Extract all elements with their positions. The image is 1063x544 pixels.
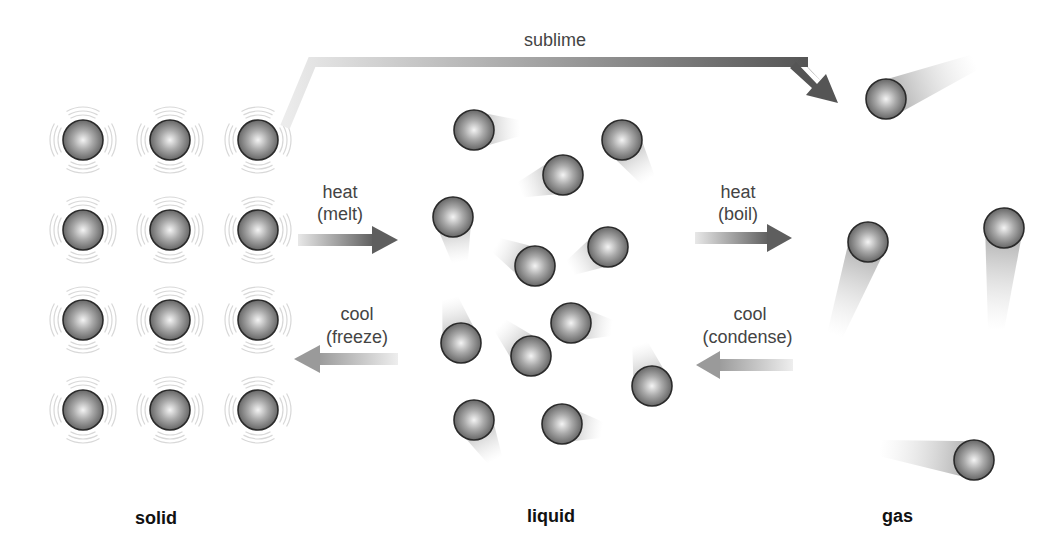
vibration-arc	[233, 128, 236, 153]
vibration-arc	[280, 308, 283, 333]
vibration-arc	[244, 381, 273, 385]
vibration-arc	[156, 111, 185, 115]
vibration-arc	[108, 306, 112, 335]
vibration-arc	[108, 396, 112, 425]
solid-particle	[238, 120, 278, 160]
vibration-arc	[244, 435, 273, 439]
vibration-arc	[246, 162, 271, 165]
sublime-label: sublime	[510, 29, 600, 51]
solid-particle	[63, 120, 103, 160]
melt-label-line1: heat	[310, 181, 370, 203]
solid-particle	[63, 210, 103, 250]
vibration-arc	[71, 385, 96, 388]
solid-particle	[150, 300, 190, 340]
vibration-arc	[244, 201, 273, 205]
condense-label-line1: cool	[700, 303, 800, 325]
vibration-arc	[280, 218, 283, 243]
liquid-particle	[511, 336, 551, 376]
vibration-arc	[105, 128, 108, 153]
vibration-arc	[244, 345, 273, 349]
liquid-particle	[551, 303, 591, 343]
vibration-arc	[158, 295, 183, 298]
vibration-arc	[145, 128, 148, 153]
vibration-arc	[233, 308, 236, 333]
vibration-arc	[58, 398, 61, 423]
sublime-arrow	[285, 57, 838, 127]
melt-arrow	[298, 226, 398, 254]
vibration-arc	[246, 205, 271, 208]
vibration-arc	[158, 205, 183, 208]
vibration-arc	[141, 396, 145, 425]
vibration-arc	[54, 396, 58, 425]
solid-particle	[150, 120, 190, 160]
vibration-arc	[229, 126, 233, 155]
vibration-arc	[156, 381, 185, 385]
vibration-arc	[280, 398, 283, 423]
gas-label: gas	[882, 506, 913, 527]
solid-particle	[150, 390, 190, 430]
vibration-arc	[71, 432, 96, 435]
vibration-arc	[229, 216, 233, 245]
vibration-arc	[158, 432, 183, 435]
vibration-arc	[69, 201, 98, 205]
vibration-arc	[141, 216, 145, 245]
solid-particle	[63, 390, 103, 430]
freeze-label-line1: cool	[322, 303, 392, 325]
vibration-arc	[158, 385, 183, 388]
gas-particle	[984, 208, 1024, 248]
vibration-arc	[156, 291, 185, 295]
vibration-arc	[156, 255, 185, 259]
condense-arrow	[696, 351, 793, 379]
boil-label-line1: heat	[708, 181, 768, 203]
vibration-arc	[58, 128, 61, 153]
solid-particle	[150, 210, 190, 250]
liquid-particle	[454, 110, 494, 150]
vibration-arc	[145, 398, 148, 423]
vibration-arc	[108, 216, 112, 245]
vibration-arc	[156, 345, 185, 349]
vibration-arc	[283, 126, 287, 155]
vibration-arc	[156, 435, 185, 439]
vibration-arc	[158, 162, 183, 165]
liquid-particle	[543, 155, 583, 195]
gas-particle	[866, 79, 906, 119]
vibration-arc	[141, 306, 145, 335]
vibration-arc	[145, 218, 148, 243]
vibration-arc	[105, 218, 108, 243]
vibration-arc	[229, 306, 233, 335]
vibration-arc	[71, 205, 96, 208]
vibration-arc	[283, 306, 287, 335]
vibration-arc	[246, 385, 271, 388]
vibration-arc	[283, 396, 287, 425]
vibration-arc	[54, 126, 58, 155]
vibration-arc	[246, 115, 271, 118]
vibration-arc	[71, 252, 96, 255]
liquid-label: liquid	[527, 506, 575, 527]
vibration-arc	[69, 165, 98, 169]
vibration-arc	[71, 295, 96, 298]
liquid-particle	[515, 246, 555, 286]
boil-label-line2: (boil)	[708, 203, 768, 225]
vibration-arc	[233, 398, 236, 423]
vibration-arc	[229, 396, 233, 425]
vibration-arc	[69, 381, 98, 385]
vibration-arc	[244, 165, 273, 169]
particles	[63, 79, 1024, 480]
liquid-particle	[454, 400, 494, 440]
vibration-arc	[156, 201, 185, 205]
vibration-arc	[158, 342, 183, 345]
vibration-arc	[192, 218, 195, 243]
condense-label-line2: (condense)	[695, 326, 800, 348]
vibration-arc	[283, 216, 287, 245]
liquid-particle	[602, 120, 642, 160]
vibration-arc	[69, 435, 98, 439]
vibration-arc	[192, 398, 195, 423]
vibration-arc	[246, 432, 271, 435]
vibration-arc	[69, 255, 98, 259]
gas-particle	[954, 440, 994, 480]
vibration-arc	[69, 291, 98, 295]
freeze-arrow	[294, 345, 398, 373]
vibration-arc	[105, 398, 108, 423]
solid-particle	[238, 210, 278, 250]
vibration-arc	[192, 128, 195, 153]
